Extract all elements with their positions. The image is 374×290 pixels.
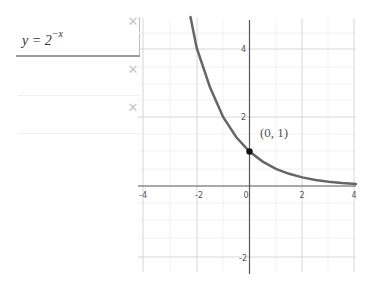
minor-grid: [138, 18, 356, 272]
y-tick-label: 2: [241, 113, 246, 122]
y-tick-label: 4: [241, 45, 246, 54]
point-0-1[interactable]: [246, 148, 252, 154]
x-tick-label: 4: [351, 191, 356, 200]
point-label: (0, 1): [260, 125, 288, 140]
x-tick-label: -4: [139, 191, 147, 200]
function-curve[interactable]: [190, 18, 250, 158]
y-tick-label: -2: [239, 254, 247, 263]
x-tick-label: 2: [299, 191, 304, 200]
graph-view[interactable]: -4 -2 0 2 4 4 2 -2 (0, 1): [0, 0, 374, 290]
x-tick-label: 0: [243, 191, 248, 200]
major-grid: [138, 18, 356, 272]
x-tick-label: -2: [195, 191, 203, 200]
